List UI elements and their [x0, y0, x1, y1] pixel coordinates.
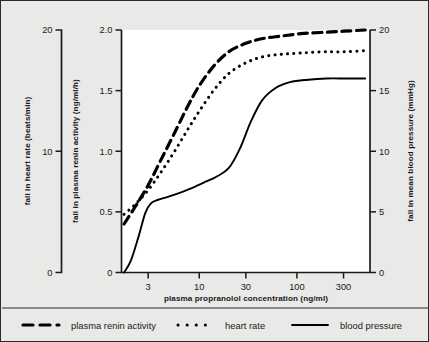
figure-container: 01020 fall in heart rate (beats/min) 00.…	[0, 0, 429, 342]
tick-label: 5	[379, 207, 384, 217]
heart-rate-axis: 01020 fall in heart rate (beats/min)	[23, 25, 62, 278]
x-axis: 31030100300 plasma propranolol concentra…	[121, 273, 370, 304]
tick-label: 0	[47, 268, 52, 278]
legend-label-heart-rate: heart rate	[225, 320, 265, 331]
plasma-renin-activity-axis: 00.51.01.52.0 fall in plasma renin activ…	[71, 25, 122, 278]
legend-label-blood-pressure: blood pressure	[340, 320, 402, 331]
tick-label: 0.5	[100, 207, 113, 217]
heart-rate-axis-title: fall in heart rate (beats/min)	[23, 96, 32, 205]
plasma-renin-activity-tick-labels: 00.51.01.52.0	[100, 25, 113, 278]
x-axis-title: plasma propranolol concentration (ng/ml)	[164, 294, 328, 303]
x-axis-tick-marks	[148, 273, 343, 279]
plasma-renin-activity-tick-marks	[116, 30, 122, 273]
mean-blood-pressure-axis-title: fall in mean blood pressure (mmHg)	[406, 80, 415, 222]
tick-label: 30	[241, 282, 251, 292]
tick-label: 20	[379, 25, 389, 35]
tick-label: 0	[107, 268, 112, 278]
tick-label: 2.0	[100, 25, 113, 35]
x-axis-tick-labels: 31030100300	[146, 282, 352, 292]
tick-label: 0	[379, 268, 384, 278]
tick-label: 20	[42, 25, 52, 35]
tick-label: 1.0	[100, 147, 113, 157]
tick-label: 10	[194, 282, 204, 292]
legend: plasma renin activity heart rate blood p…	[23, 320, 402, 331]
tick-label: 100	[289, 282, 305, 292]
mean-blood-pressure-tick-labels: 05101520	[379, 25, 389, 278]
plasma-renin-activity-axis-title: fall in plasma renin activity (ng/ml/h)	[71, 79, 80, 223]
tick-label: 10	[379, 147, 389, 157]
chart-canvas: 01020 fall in heart rate (beats/min) 00.…	[1, 1, 429, 342]
plot-area-background	[121, 30, 370, 272]
tick-label: 1.5	[100, 86, 113, 96]
tick-label: 3	[146, 282, 151, 292]
legend-label-plasma-renin-activity: plasma renin activity	[71, 320, 156, 331]
tick-label: 10	[42, 147, 52, 157]
heart-rate-tick-labels: 01020	[42, 25, 52, 278]
tick-label: 15	[379, 86, 389, 96]
mean-blood-pressure-axis: 05101520 fall in mean blood pressure (mm…	[370, 25, 415, 278]
tick-label: 300	[336, 282, 352, 292]
mean-blood-pressure-tick-marks	[370, 30, 376, 273]
